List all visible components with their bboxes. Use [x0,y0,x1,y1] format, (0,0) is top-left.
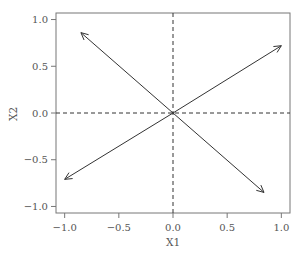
x-tick-label: 0.5 [219,222,235,233]
arrowhead-icon [273,46,281,53]
y-tick-label: −1.0 [24,201,48,212]
x-tick-label: 0.0 [165,222,181,233]
arrow-0 [81,33,173,113]
x-axis-title: X1 [166,236,180,248]
vector-plot: −1.0−0.50.00.51.0 −1.0−0.50.00.51.0 X1 X… [0,0,303,262]
x-axis-ticks: −1.0−0.50.00.51.0 [53,213,290,233]
y-tick-label: 1.0 [32,14,48,25]
arrow-3 [173,113,264,192]
arrow-1 [173,46,281,113]
arrow-2 [65,113,173,179]
y-tick-label: 0.5 [32,61,48,72]
y-axis-title: X2 [7,107,19,121]
y-tick-label: −0.5 [24,154,48,165]
x-tick-label: 1.0 [273,222,289,233]
x-tick-label: −1.0 [53,222,77,233]
arrowhead-icon [65,173,73,180]
x-tick-label: −0.5 [107,222,131,233]
y-axis-ticks: −1.0−0.50.00.51.0 [24,14,56,212]
y-tick-label: 0.0 [32,108,48,119]
